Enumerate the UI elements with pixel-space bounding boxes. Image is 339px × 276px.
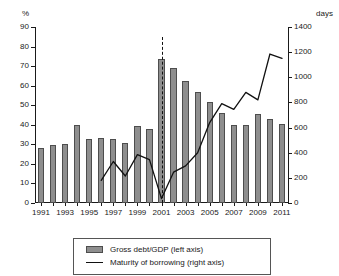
x-tick-mark [258,203,259,206]
right-tick-mark [288,52,292,53]
legend-bar-swatch-icon [86,246,103,253]
x-tick-mark [113,203,114,206]
left-tick-label: 20 [20,160,29,168]
right-tick-mark [288,102,292,103]
plot-area: 0102030405060708090 02004006008001000120… [35,27,288,203]
left-tick-label: 40 [20,121,29,129]
right-tick-label: 1400 [294,23,312,31]
legend-label-maturity-of-borrowing: Maturity of borrowing (right axis) [110,258,224,267]
x-tick-mark [149,203,150,206]
x-tick-mark [125,203,126,206]
x-tick-label: 1993 [56,209,74,217]
right-tick-mark [288,77,292,78]
legend-item-maturity-of-borrowing: Maturity of borrowing (right axis) [74,256,270,269]
right-tick-label: 1200 [294,48,312,56]
x-tick-mark [222,203,223,206]
right-tick-label: 600 [294,124,307,132]
legend-label-gross-debt-gdp: Gross debt/GDP (left axis) [110,245,203,254]
left-tick-label: 70 [20,62,29,70]
x-tick-label: 2009 [249,209,267,217]
x-tick-label: 2005 [201,209,219,217]
x-tick-mark [137,203,138,206]
x-tick-label: 1995 [80,209,98,217]
right-tick-mark [288,27,292,28]
x-tick-label: 2003 [177,209,195,217]
left-tick-mark [31,203,35,204]
line-series-maturity-of-borrowing [35,27,288,203]
x-tick-mark [89,203,90,206]
left-axis-unit-label: % [22,9,29,18]
x-tick-mark [77,203,78,206]
x-tick-label: 2007 [225,209,243,217]
chart-figure: % days 0102030405060708090 0200400600800… [0,0,339,276]
x-tick-mark [53,203,54,206]
x-tick-mark [186,203,187,206]
x-tick-label: 2011 [273,209,290,217]
x-tick-mark [270,203,271,206]
right-tick-label: 800 [294,98,307,106]
left-tick-label: 80 [20,43,29,51]
legend-item-gross-debt-gdp: Gross debt/GDP (left axis) [74,243,270,256]
x-tick-mark [162,203,163,206]
left-tick-label: 60 [20,82,29,90]
left-tick-label: 90 [20,23,29,31]
x-tick-mark [198,203,199,206]
right-tick-label: 400 [294,149,307,157]
right-tick-label: 0 [294,199,298,207]
right-axis [288,27,289,203]
right-tick-label: 200 [294,174,307,182]
x-tick-label: 1997 [104,209,122,217]
right-axis-unit-label: days [316,9,333,18]
right-tick-mark [288,178,292,179]
right-tick-mark [288,128,292,129]
x-tick-label: 1999 [128,209,146,217]
x-tick-mark [210,203,211,206]
legend-line-swatch-icon [86,262,103,263]
x-tick-mark [282,203,283,206]
x-tick-mark [234,203,235,206]
x-tick-mark [174,203,175,206]
x-tick-mark [101,203,102,206]
right-tick-mark [288,203,292,204]
x-tick-mark [65,203,66,206]
left-tick-label: 50 [20,101,29,109]
chart-legend: Gross debt/GDP (left axis) Maturity of b… [73,238,271,275]
x-tick-label: 1991 [32,209,50,217]
x-tick-mark [41,203,42,206]
right-tick-mark [288,153,292,154]
left-tick-label: 30 [20,140,29,148]
right-tick-label: 1000 [294,73,312,81]
left-tick-label: 0 [25,199,29,207]
x-tick-mark [246,203,247,206]
left-tick-label: 10 [20,179,29,187]
x-tick-label: 2001 [153,209,171,217]
